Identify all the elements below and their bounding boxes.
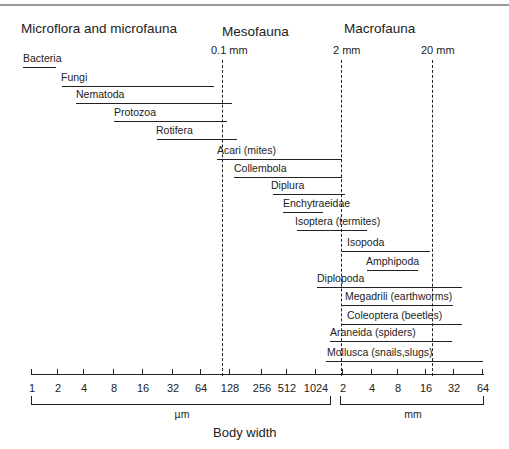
threshold-dashed-line xyxy=(222,60,223,376)
taxon-range-bar xyxy=(217,159,342,160)
axis-tick-label: 2 xyxy=(340,382,346,394)
threshold-label: 0.1 mm xyxy=(211,44,248,56)
axis-tick xyxy=(397,369,398,375)
taxon-range-bar xyxy=(114,121,227,122)
taxon-range-bar xyxy=(157,139,237,140)
taxon-range-bar xyxy=(330,341,452,342)
taxon-range-bar xyxy=(273,194,345,195)
taxon-label: Mollusca (snails,slugs) xyxy=(327,346,433,358)
axis-tick-label: 16 xyxy=(420,382,432,394)
taxon-range-bar xyxy=(367,270,418,271)
taxon-range-bar xyxy=(76,103,232,104)
axis-tick xyxy=(453,369,454,375)
taxon-label: Diplopoda xyxy=(317,272,364,284)
axis-tick xyxy=(142,369,143,375)
taxon-range-bar xyxy=(342,305,453,306)
axis-tick-label: 64 xyxy=(195,382,207,394)
heading-macrofauna: Macrofauna xyxy=(344,21,415,36)
taxon-range-bar xyxy=(326,361,483,362)
axis-tick xyxy=(200,369,201,375)
taxon-range-bar xyxy=(23,67,56,68)
threshold-label: 2 mm xyxy=(333,44,361,56)
axis-title: Body width xyxy=(213,425,277,440)
axis-tick xyxy=(83,369,84,375)
axis-tick-label: 1024 xyxy=(304,382,328,394)
axis-tick-label: 8 xyxy=(395,382,401,394)
axis-tick-label: 512 xyxy=(278,382,296,394)
threshold-dashed-line xyxy=(432,60,433,376)
axis-tick xyxy=(482,369,483,375)
taxon-label: Enchytraeidae xyxy=(283,197,350,209)
unit-label: µm xyxy=(175,408,190,420)
axis-tick xyxy=(286,369,287,375)
axis-tick-label: 4 xyxy=(369,382,375,394)
axis-tick xyxy=(261,369,262,375)
unit-bracket xyxy=(31,396,331,405)
axis-tick-label: 256 xyxy=(253,382,271,394)
taxon-label: Acari (mites) xyxy=(217,144,276,156)
axis-tick-label: 64 xyxy=(477,382,489,394)
axis-tick xyxy=(229,369,230,375)
taxon-range-bar xyxy=(317,287,462,288)
heading-mesofauna: Mesofauna xyxy=(222,24,289,39)
heading-microflora-microfauna: Microflora and microfauna xyxy=(21,21,177,36)
taxon-label: Collembola xyxy=(234,162,287,174)
taxon-label: Megadrili (earthworms) xyxy=(345,290,452,302)
unit-bracket xyxy=(340,396,484,405)
axis-tick-label: 16 xyxy=(137,382,149,394)
axis-tick-label: 128 xyxy=(221,382,239,394)
taxon-label: Araneida (spiders) xyxy=(330,326,416,338)
axis-tick xyxy=(371,369,372,375)
axis-tick xyxy=(425,369,426,375)
taxon-label: Diplura xyxy=(271,179,304,191)
axis-tick xyxy=(31,369,32,375)
taxon-label: Isoptera (termites) xyxy=(295,215,380,227)
unit-label: mm xyxy=(404,408,422,420)
taxon-range-bar xyxy=(297,230,367,231)
axis-tick-label: 32 xyxy=(167,382,179,394)
axis-tick xyxy=(172,369,173,375)
axis-tick-label: 2 xyxy=(55,382,61,394)
taxon-label: Fungi xyxy=(61,71,87,83)
taxon-label: Amphipoda xyxy=(366,255,419,267)
taxon-label: Bacteria xyxy=(23,52,62,64)
taxon-label: Coleoptera (beetles) xyxy=(347,309,442,321)
taxon-label: Protozoa xyxy=(114,106,156,118)
taxon-label: Nematoda xyxy=(76,88,124,100)
axis-line xyxy=(31,374,484,375)
taxon-range-bar xyxy=(342,251,430,252)
axis-tick-label: 1 xyxy=(29,382,35,394)
axis-tick-label: 4 xyxy=(81,382,87,394)
threshold-label: 20 mm xyxy=(421,44,455,56)
taxon-label: Isopoda xyxy=(347,236,384,248)
taxon-label: Rotifera xyxy=(156,124,193,136)
taxon-range-bar xyxy=(283,212,323,213)
axis-tick-label: 32 xyxy=(448,382,460,394)
top-border-line xyxy=(0,4,509,6)
axis-tick xyxy=(113,369,114,375)
axis-tick-label: 8 xyxy=(111,382,117,394)
axis-tick xyxy=(57,369,58,375)
axis-tick xyxy=(315,369,316,375)
axis-tick xyxy=(342,369,343,375)
